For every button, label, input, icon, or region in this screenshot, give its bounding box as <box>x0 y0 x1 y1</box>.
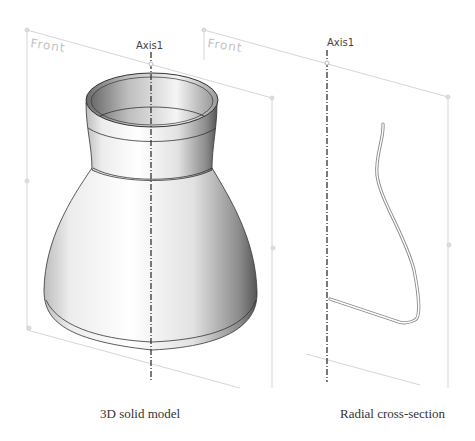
axis-label-left: Axis1 <box>136 40 163 51</box>
diagram-canvas: Front Axis1 <box>0 0 475 441</box>
axis-label-right: Axis1 <box>327 37 354 48</box>
left-view: Front Axis1 <box>25 28 275 388</box>
caption-3d-solid-model: 3D solid model <box>100 406 180 422</box>
right-view: Front Axis1 <box>202 28 451 388</box>
caption-radial-cross-section: Radial cross-section <box>340 406 445 422</box>
radial-profile-curve <box>330 124 419 323</box>
